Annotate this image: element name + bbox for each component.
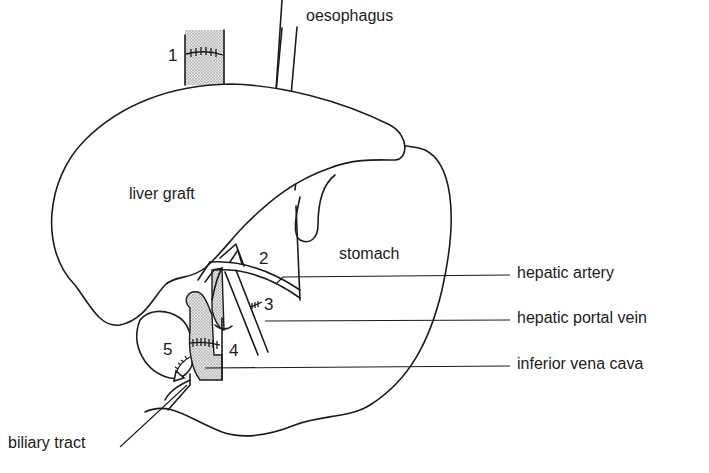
anastomosis-number-2: 2 [259,250,268,267]
label-oesophagus: oesophagus [306,8,393,24]
anastomosis-number-3: 3 [264,296,273,313]
liver-graft [52,84,405,325]
anastomosis-number-1: 1 [168,47,177,64]
oesophagus [276,0,297,96]
label-hepatic-artery: hepatic artery [517,265,614,281]
label-biliary-tract: biliary tract [8,435,85,451]
label-stomach: stomach [339,246,399,262]
anastomosis-number-5: 5 [163,341,172,358]
label-inferior-vena-cava: inferior vena cava [517,356,643,372]
anastomosis-number-4: 4 [229,342,238,359]
inferior-vena-cava-shaded [186,268,224,380]
label-hepatic-portal-vein: hepatic portal vein [517,310,647,326]
liver-transplant-diagram [0,0,709,473]
suprahepatic-vena-cava [185,30,224,85]
label-liver-graft: liver graft [129,186,195,202]
